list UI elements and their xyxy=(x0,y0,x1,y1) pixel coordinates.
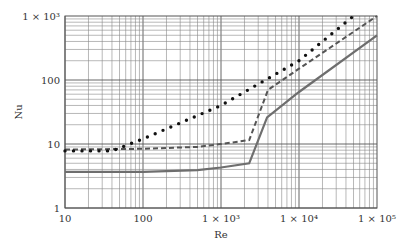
x-axis-ticks: 101001 × 10³1 × 10⁴1 × 10⁵ xyxy=(59,213,396,224)
grid-lines xyxy=(65,16,377,208)
x-tick-label: 1 × 10³ xyxy=(202,213,240,224)
chart: 101001 × 10³1 × 10⁴1 × 10⁵ 1101001 × 10³… xyxy=(0,0,410,250)
x-axis-label: Re xyxy=(214,229,228,240)
y-axis-label: Nu xyxy=(13,104,24,120)
y-tick-label: 1 × 10³ xyxy=(22,11,60,22)
x-tick-label: 1 × 10⁵ xyxy=(358,213,396,224)
y-tick-label: 100 xyxy=(41,75,60,86)
y-axis-ticks: 1101001 × 10³ xyxy=(22,11,60,214)
x-tick-label: 1 × 10⁴ xyxy=(280,213,318,224)
x-tick-label: 10 xyxy=(59,213,72,224)
y-tick-label: 1 xyxy=(54,203,60,214)
x-tick-label: 100 xyxy=(133,213,152,224)
y-tick-label: 10 xyxy=(47,139,60,150)
